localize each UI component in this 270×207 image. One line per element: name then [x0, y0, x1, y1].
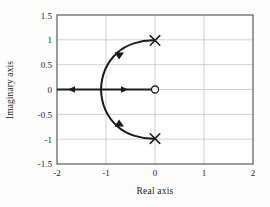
y-tick-label: -0.5 — [38, 110, 53, 120]
x-tick-label: -1 — [102, 168, 110, 178]
x-axis-title: Real axis — [57, 186, 253, 196]
x-tick-label: 1 — [202, 168, 207, 178]
y-tick-label: 0 — [48, 85, 53, 95]
y-axis-title: Imaginary axis — [5, 61, 15, 119]
x-tick-label: 0 — [153, 168, 158, 178]
plot-canvas: -2 -1 0 1 2 1.5 1 0.5 0 -0.5 -1 -1.5 — [0, 0, 270, 207]
y-tick-label: -1.5 — [38, 159, 53, 169]
y-tick-labels: 1.5 1 0.5 0 -0.5 -1 -1.5 — [38, 11, 53, 170]
y-tick-label: 1.5 — [41, 11, 53, 21]
zero-marker-origin — [152, 86, 159, 93]
y-tick-label: 1 — [48, 35, 53, 45]
y-axis-title-wrap: Imaginary axis — [2, 20, 18, 160]
y-tick-label: -1 — [45, 135, 53, 145]
x-tick-labels: -2 -1 0 1 2 — [53, 168, 255, 178]
y-tick-label: 0.5 — [41, 60, 53, 70]
x-tick-label: 2 — [251, 168, 256, 178]
root-locus-figure: -2 -1 0 1 2 1.5 1 0.5 0 -0.5 -1 -1.5 Ima… — [0, 0, 270, 207]
x-tick-label: -2 — [53, 168, 61, 178]
